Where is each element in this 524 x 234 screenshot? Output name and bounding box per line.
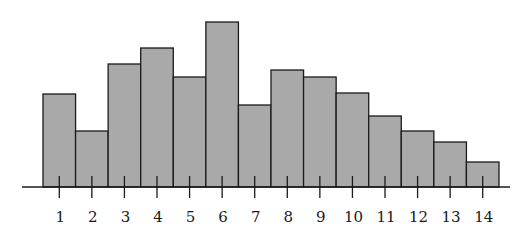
bar-8 <box>271 70 304 187</box>
x-tick-label-6: 6 <box>218 208 228 226</box>
bars-group <box>43 22 499 187</box>
x-tick-label-8: 8 <box>284 208 294 226</box>
bar-7 <box>238 105 271 187</box>
histogram-chart: 1234567891011121314 <box>0 0 524 234</box>
bar-10 <box>336 93 369 187</box>
tick-labels-group: 1234567891011121314 <box>56 208 494 226</box>
bar-3 <box>108 64 141 187</box>
x-tick-label-11: 11 <box>376 208 395 226</box>
x-tick-label-1: 1 <box>56 208 66 226</box>
x-tick-label-9: 9 <box>316 208 326 226</box>
bar-5 <box>173 77 206 187</box>
x-tick-label-4: 4 <box>153 208 163 226</box>
x-tick-label-3: 3 <box>121 208 131 226</box>
x-tick-label-5: 5 <box>186 208 196 226</box>
x-tick-label-10: 10 <box>344 208 363 226</box>
bar-6 <box>206 22 239 187</box>
x-tick-label-12: 12 <box>409 208 428 226</box>
x-tick-label-14: 14 <box>474 208 493 226</box>
bar-4 <box>141 48 174 187</box>
bar-9 <box>304 77 337 187</box>
x-tick-label-13: 13 <box>442 208 461 226</box>
bar-1 <box>43 94 76 187</box>
x-tick-label-2: 2 <box>88 208 98 226</box>
x-tick-label-7: 7 <box>251 208 261 226</box>
